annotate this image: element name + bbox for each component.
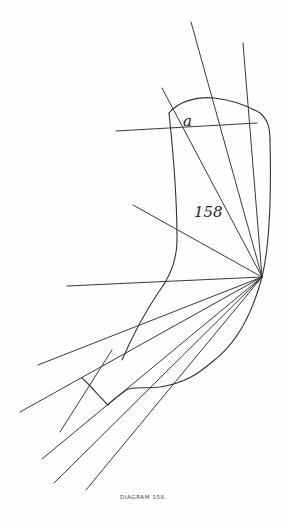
crossing-line	[60, 350, 112, 432]
pattern-diagram: a 158	[0, 0, 287, 524]
outline-right	[262, 140, 270, 277]
diagram-caption: DIAGRAM 158.	[0, 494, 287, 500]
radial-lines	[20, 22, 262, 490]
ray-lower-2	[20, 277, 262, 412]
label-a: a	[183, 112, 192, 130]
pattern-outline	[82, 98, 270, 405]
ray-lower-3	[42, 277, 262, 459]
ray-lower-1	[38, 277, 262, 365]
outline-left	[122, 113, 177, 360]
label-figure-number: 158	[194, 203, 223, 221]
ray-lower-4	[54, 277, 262, 483]
diagram-page: a 158 DIAGRAM 158.	[0, 0, 287, 524]
ray-horizontal	[67, 277, 262, 286]
